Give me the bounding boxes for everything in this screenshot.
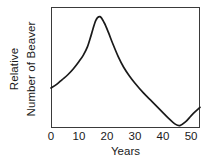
x-tick-label: 0 [38, 130, 64, 143]
x-axis-title: Years [51, 145, 200, 158]
x-tick-label: 40 [150, 130, 176, 143]
x-tick-label: 10 [66, 130, 92, 143]
y-axis-title-line-2: Number of Beaver [25, 14, 39, 124]
beaver-population-chart: Relative Number of Beaver 01020304050 Ye… [0, 0, 212, 166]
x-tick-label: 30 [122, 130, 148, 143]
beaver-population-curve [51, 17, 200, 126]
x-tick-label: 20 [94, 130, 120, 143]
plot-area [51, 7, 200, 128]
y-axis-title-line-1: Relative [8, 21, 22, 117]
x-tick-label: 50 [178, 130, 204, 143]
